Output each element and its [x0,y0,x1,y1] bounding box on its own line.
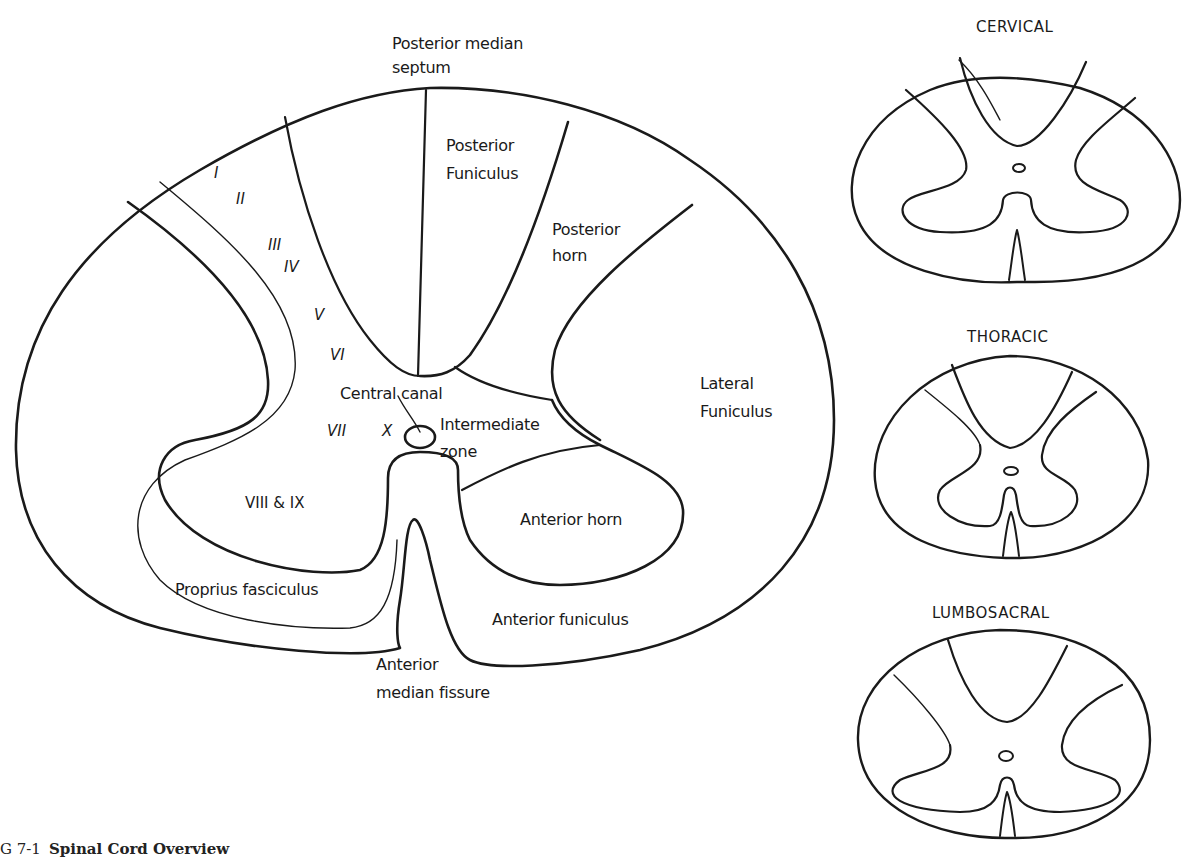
thoracic-section [875,356,1148,558]
figure-title: Spinal Cord Overview [49,840,229,858]
lamina-x-label: X [382,422,392,440]
lamina-boundary [455,367,552,400]
intermediate-zone-label-1: Intermediate [440,415,540,435]
thoracic-title: THORACIC [967,328,1048,346]
intermediate-zone-label-2: zone [440,442,477,462]
anterior-funiculus-label: Anterior funiculus [492,610,629,630]
posterior-median-septum-label-2: septum [392,58,451,78]
anterior-horn-label: Anterior horn [520,510,622,530]
central-canal-label: Central canal [340,384,442,404]
lamina-viii-ix-label: VIII & IX [245,494,304,512]
anterior-median-fissure-label-2: median fissure [376,683,490,703]
cervical-section [852,58,1180,282]
lamina-v-label: V [314,306,324,324]
lamina-vii-label: VII [327,422,346,440]
lamina-ii-label: II [236,190,245,208]
posterior-horn-lateral-edge [552,205,692,440]
anterior-horn-top-line [462,445,600,490]
figure-number: G 7-1 [0,840,41,858]
cervical-title: CERVICAL [976,18,1053,36]
posterior-horn-label-2: horn [552,246,587,266]
lateral-funiculus-label-2: Funiculus [700,402,772,422]
lamina-vi-label: VI [330,346,345,364]
anterior-median-fissure-label-1: Anterior [376,655,438,675]
lamina-i-label: I [214,164,218,182]
central-canal-shape [405,426,435,448]
lumbosacral-title: LUMBOSACRAL [932,604,1050,622]
lamina-iii-label: III [268,236,281,254]
proprius-fasciculus-label: Proprius fasciculus [175,580,318,600]
posterior-horn-label-1: Posterior [552,220,620,240]
posterior-funiculus-label-1: Posterior [446,136,514,156]
posterior-median-septum-label-1: Posterior median [392,34,523,54]
lateral-funiculus-label-1: Lateral [700,374,754,394]
posterior-median-septum-line [418,90,426,376]
dorsal-horn-left-edge [285,117,420,376]
lumbosacral-section [858,630,1150,838]
figure-caption: G 7-1Spinal Cord Overview [0,840,229,858]
posterior-funiculus-label-2: Funiculus [446,164,518,184]
dorsal-horn-right-edge [420,122,568,376]
lamina-iv-label: IV [284,258,299,276]
spinal-cord-diagram [0,0,1191,863]
